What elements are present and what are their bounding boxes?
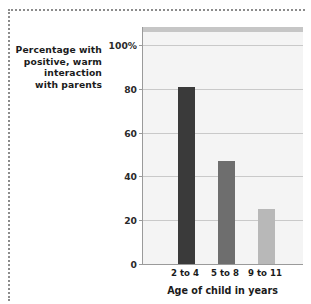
y-tick-label-60: 60	[99, 127, 137, 138]
y-tick-label-100: 100%	[99, 40, 137, 51]
x-tick-label-9-to-11: 9 to 11	[248, 268, 282, 278]
y-tick-label-40: 40	[99, 171, 137, 182]
y-tick-label-20: 20	[99, 215, 137, 226]
y-tick-label-80: 80	[99, 83, 137, 94]
y-axis-tick-labels: 020406080100%	[0, 0, 311, 304]
x-tick-label-2-to-4: 2 to 4	[171, 268, 199, 278]
y-tick-label-0: 0	[99, 259, 137, 270]
x-tick-label-5-to-8: 5 to 8	[211, 268, 239, 278]
x-axis-tick-labels: 2 to 45 to 89 to 11	[142, 268, 303, 282]
x-axis-title: Age of child in years	[142, 285, 303, 296]
